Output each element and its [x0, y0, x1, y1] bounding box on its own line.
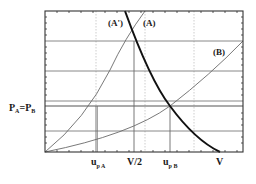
label-pb-sub: B: [31, 108, 35, 114]
label-v: V: [216, 156, 224, 167]
label-upb: up B: [163, 156, 177, 169]
label-curve-a: (A): [143, 18, 156, 28]
diagram-figure: (A') (A) (B) PA=PB up A V/2 up B V: [0, 0, 256, 184]
vertical-lines: [96, 41, 170, 152]
label-pa-eq-pb: PA=PB: [9, 102, 35, 114]
label-upa: up A: [91, 156, 106, 169]
label-curve-b: (B): [213, 47, 225, 57]
label-v-half: V/2: [127, 156, 142, 167]
label-curve-a-prime: (A'): [108, 18, 123, 28]
